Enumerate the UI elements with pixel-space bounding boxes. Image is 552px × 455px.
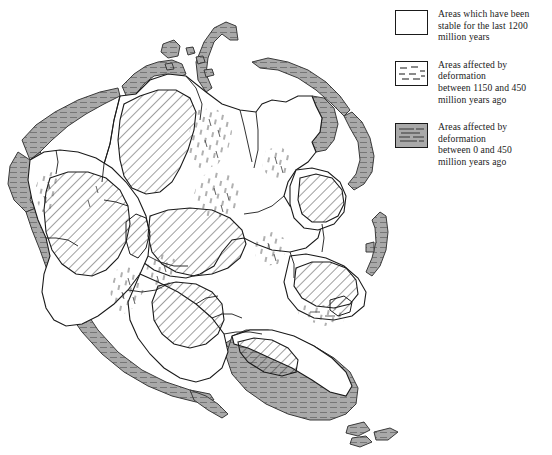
swatch-gray-graphic (396, 124, 427, 147)
legend-item-phanerozoic: Areas affected by deformation between 0 … (395, 121, 552, 167)
legend-swatch-dashed-lines-box (395, 61, 428, 86)
orogen-newzealand-notch (366, 242, 374, 252)
map-canvas (0, 0, 400, 455)
legend: Areas which have been stable for the las… (395, 8, 552, 184)
orogen-islet-d (204, 69, 214, 77)
orogen-fragment-1 (346, 422, 370, 436)
stipple-east-upper (262, 146, 290, 178)
orogen-islet-e (165, 63, 174, 70)
legend-swatch-gray-striated-box (395, 123, 428, 148)
orogen-fragment-2 (350, 436, 372, 447)
legend-item-midproterozoic: Areas affected by deformation between 11… (395, 59, 552, 105)
orogen-islet-c (196, 56, 205, 64)
legend-label-phanerozoic: Areas affected by deformation between 0 … (438, 121, 552, 167)
orogen-islet-b (186, 47, 195, 55)
swatch-dashed-graphic (396, 62, 427, 85)
legend-label-midproterozoic: Areas affected by deformation between 11… (438, 59, 552, 105)
orogen-fragment-3 (374, 428, 398, 440)
orogen-northwest-margin (22, 88, 120, 160)
swatch-blank-graphic (396, 11, 427, 34)
map-svg (0, 0, 400, 455)
legend-swatch-blank-white-box (395, 10, 428, 35)
orogen-east-margin (344, 112, 374, 190)
legend-item-stable: Areas which have been stable for the las… (395, 8, 552, 43)
pangaea-stability-figure: Areas which have been stable for the las… (0, 0, 552, 455)
legend-label-stable: Areas which have been stable for the las… (438, 8, 529, 43)
orogen-islet-a (161, 40, 180, 58)
